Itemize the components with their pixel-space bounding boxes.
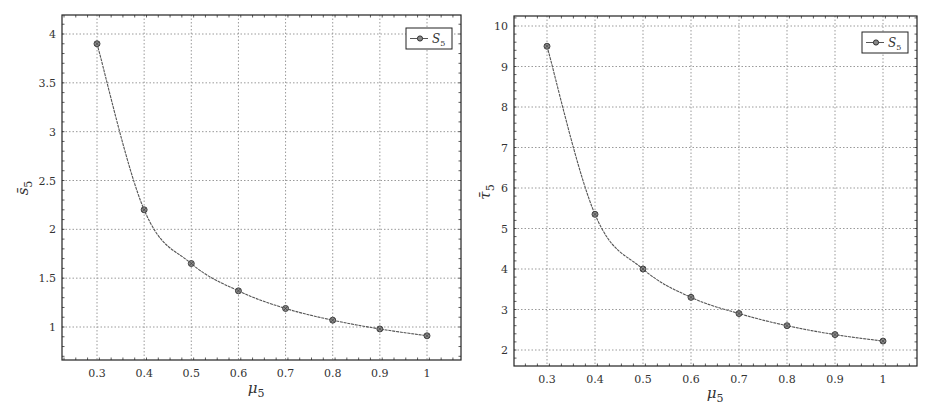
legend-marker-icon — [873, 40, 878, 45]
y-tick-label: 1.5 — [39, 272, 57, 285]
y-tick-label: 2 — [49, 223, 56, 236]
x-tick-label: 0.6 — [230, 367, 248, 380]
y-tick-label: 7 — [501, 142, 508, 155]
x-tick-label: 0.4 — [135, 367, 153, 380]
x-tick-label: 0.7 — [277, 367, 295, 380]
x-tick-label: 0.9 — [826, 373, 844, 386]
x-tick-label: 0.8 — [324, 367, 342, 380]
y-tick-label: 9 — [501, 61, 508, 74]
chart-canvas: 0.30.40.50.60.70.80.9111.522.533.54 0.30… — [0, 0, 939, 411]
y-tick-label: 5 — [501, 223, 508, 236]
x-tick-label: 0.3 — [538, 373, 556, 386]
left-legend: S5 — [406, 28, 452, 49]
y-tick-label: 8 — [501, 101, 508, 114]
left-x-axis-label: μ5 — [248, 379, 265, 400]
x-tick-label: 0.7 — [730, 373, 748, 386]
y-tick-label: 1 — [49, 321, 56, 334]
x-tick-label: 0.9 — [371, 367, 389, 380]
x-tick-label: 1 — [880, 373, 887, 386]
y-tick-label: 3.5 — [39, 77, 57, 90]
right-y-axis-label: τ̄5 — [476, 184, 497, 199]
y-tick-label: 10 — [494, 20, 508, 33]
x-tick-label: 0.6 — [682, 373, 700, 386]
y-tick-label: 6 — [501, 182, 508, 195]
y-tick-label: 4 — [49, 28, 56, 41]
y-tick-label: 4 — [501, 263, 508, 276]
x-tick-label: 0.4 — [586, 373, 604, 386]
y-tick-label: 2.5 — [39, 175, 57, 188]
legend-marker-icon — [417, 36, 422, 41]
x-tick-label: 0.5 — [183, 367, 201, 380]
right-legend: S5 — [862, 32, 908, 53]
x-tick-label: 0.8 — [778, 373, 796, 386]
y-tick-label: 2 — [501, 344, 508, 357]
x-tick-label: 0.3 — [88, 367, 106, 380]
right-x-axis-label: μ5 — [707, 384, 724, 405]
y-tick-label: 3 — [49, 126, 56, 139]
left-chart: 0.30.40.50.60.70.80.9111.522.533.54 — [39, 15, 462, 380]
left-y-axis-label: s̄5 — [14, 181, 35, 196]
y-tick-label: 3 — [501, 304, 508, 317]
x-tick-label: 1 — [424, 367, 431, 380]
x-tick-label: 0.5 — [634, 373, 652, 386]
right-chart: 0.30.40.50.60.70.80.912345678910 — [494, 16, 917, 386]
